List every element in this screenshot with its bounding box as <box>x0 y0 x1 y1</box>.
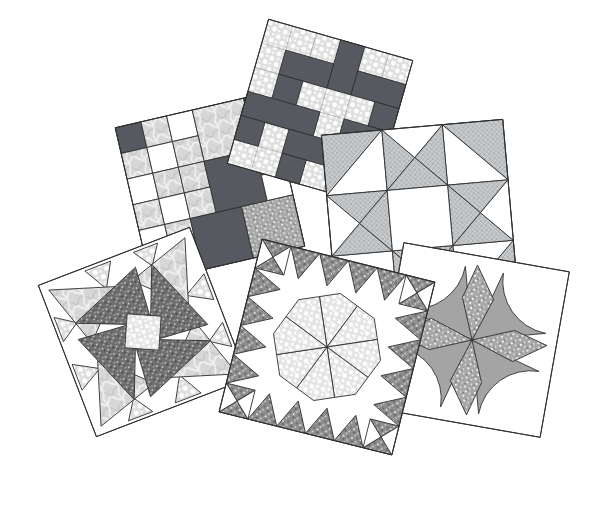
quilt-blocks-illustration <box>0 0 597 511</box>
quilt-illustration-stage <box>0 0 597 511</box>
